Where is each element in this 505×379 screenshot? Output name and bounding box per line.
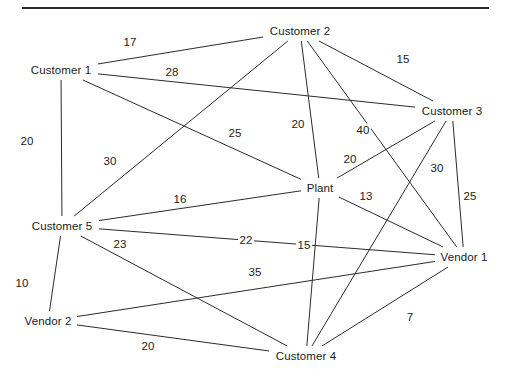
network-edge[interactable] — [307, 41, 456, 247]
edge-weight-e-c3-c4: 30 — [429, 162, 445, 175]
node-customer2[interactable]: Customer 2 — [268, 25, 332, 38]
edge-weight-e-c1-c2: 17 — [122, 36, 138, 49]
network-edge[interactable] — [77, 325, 269, 351]
edge-weight-e-c2-c5: 30 — [102, 155, 118, 168]
edge-weight-e-c2-v1: 40 — [355, 124, 371, 137]
network-edge[interactable] — [74, 41, 288, 216]
network-edge[interactable] — [99, 229, 435, 255]
edge-weight-e-c1-c3: 28 — [164, 66, 180, 79]
edge-weight-e-c1-pl: 25 — [227, 127, 243, 140]
edge-weight-e-c1-c5: 20 — [19, 135, 35, 148]
network-edge[interactable] — [301, 41, 318, 178]
node-plant[interactable]: Plant — [305, 182, 336, 195]
network-edge[interactable] — [98, 74, 415, 107]
network-edge[interactable] — [319, 41, 433, 101]
edge-weight-e-c5-v1: 22 — [238, 234, 254, 247]
edge-weight-e-v1-c4: 7 — [405, 311, 414, 324]
edge-weight-e-v2-c4: 20 — [140, 340, 156, 353]
network-edge[interactable] — [337, 121, 435, 178]
edge-weight-e-pl-c4: 15 — [296, 239, 312, 252]
edge-weight-e-v2-v1: 35 — [247, 266, 263, 279]
network-edge[interactable] — [61, 80, 62, 216]
network-edges-layer — [0, 0, 505, 379]
node-customer4[interactable]: Customer 4 — [274, 350, 338, 363]
edge-weight-e-c2-pl: 20 — [290, 118, 306, 131]
edge-weight-e-c3-pl: 20 — [342, 153, 358, 166]
network-edge[interactable] — [312, 121, 446, 346]
network-edge[interactable] — [453, 121, 463, 247]
network-edge[interactable] — [49, 236, 60, 311]
network-edge[interactable] — [99, 191, 301, 221]
edge-weight-e-c3-v1: 25 — [462, 190, 478, 203]
node-customer1[interactable]: Customer 1 — [29, 64, 93, 77]
node-customer3[interactable]: Customer 3 — [420, 105, 484, 118]
node-vendor1[interactable]: Vendor 1 — [439, 251, 490, 264]
network-edge[interactable] — [339, 197, 443, 247]
node-vendor2[interactable]: Vendor 2 — [23, 315, 74, 328]
edge-weight-e-c2-c3: 15 — [395, 53, 411, 66]
edge-weight-e-c5-v2: 10 — [14, 277, 30, 290]
network-edge[interactable] — [322, 267, 448, 346]
node-customer5[interactable]: Customer 5 — [30, 220, 94, 233]
diagram-canvas: Customer 1Customer 2Customer 3PlantCusto… — [0, 0, 505, 379]
edge-weight-e-c5-c4: 23 — [112, 238, 128, 251]
edge-weight-e-c5-pl: 16 — [172, 193, 188, 206]
edge-weight-e-pl-v1: 13 — [358, 190, 374, 203]
network-edge[interactable] — [307, 198, 319, 346]
